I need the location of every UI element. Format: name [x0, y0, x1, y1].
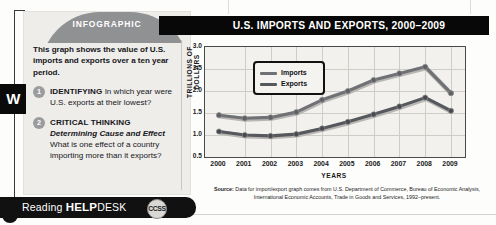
ccss-badge: CCSS: [147, 199, 167, 219]
legend-label-imports: Imports: [281, 68, 307, 78]
data-point-imports-2007: [397, 71, 402, 76]
infographic-card-body: This graph shows the value of U.S. impor…: [33, 44, 175, 161]
chart-legend: Imports Exports: [253, 61, 325, 95]
helpdesk-word-help: HELP: [66, 201, 97, 213]
data-point-imports-2006: [371, 77, 376, 82]
data-point-exports-2003: [294, 132, 299, 137]
data-point-exports-2008: [423, 95, 428, 100]
data-point-exports-2002: [268, 133, 273, 138]
data-point-exports-2001: [242, 132, 247, 137]
data-point-imports-2008: [423, 64, 428, 69]
data-point-imports-2009: [448, 91, 453, 96]
data-point-exports-2005: [345, 119, 350, 124]
y-tick-label: 2.5: [182, 64, 202, 71]
chart-plot-area: Imports Exports: [204, 46, 466, 158]
source-label: Source:: [214, 186, 234, 192]
question-number-1: 1: [33, 86, 45, 98]
legend-label-exports: Exports: [281, 79, 307, 89]
chart-series-svg: [205, 47, 465, 157]
data-point-imports-2001: [242, 116, 247, 121]
legend-swatch-imports: [260, 72, 277, 75]
question-body-2: What is one effect of a country importin…: [50, 140, 162, 160]
chart-title-bar: U.S. IMPORTS AND EXPORTS, 2000–2009: [159, 16, 489, 35]
chart-source: Source: Data for import/export graph com…: [206, 186, 488, 201]
reading-helpdesk-bar: Reading HELPDESK CCSS: [0, 197, 196, 218]
left-chapter-tab-label: W: [0, 84, 26, 114]
infographic-banner-label: INFOGRAPHIC: [24, 16, 190, 32]
chart-region: TRILLIONS OF DOLLARS 3.02.52.01.51.00.5 …: [166, 38, 491, 196]
data-point-imports-2003: [294, 110, 299, 115]
question-number-2: 2: [33, 117, 45, 129]
data-point-imports-2005: [345, 88, 350, 93]
data-point-exports-2009: [448, 108, 453, 113]
crop-mark-right: [470, 0, 471, 14]
data-point-imports-2000: [216, 113, 221, 118]
infographic-page: W INFOGRAPHIC This graph shows the value…: [0, 0, 496, 225]
question-text-1: IDENTIFYING In which year were U.S. expo…: [50, 86, 175, 108]
data-point-exports-2007: [397, 104, 402, 109]
left-chapter-tab: W: [0, 84, 26, 114]
chart-title: U.S. IMPORTS AND EXPORTS, 2000–2009: [189, 16, 489, 35]
data-point-imports-2002: [268, 115, 273, 120]
data-point-imports-2004: [320, 97, 325, 102]
infographic-lede: This graph shows the value of U.S. impor…: [33, 44, 175, 78]
helpdesk-word-reading: Reading: [22, 201, 63, 213]
card-chart-divider: [181, 40, 182, 190]
data-point-exports-2004: [320, 126, 325, 131]
y-tick-label: 0.5: [182, 152, 202, 159]
question-term-2: CRITICAL THINKING: [50, 118, 131, 127]
y-tick-label: 1.5: [182, 108, 202, 115]
data-point-exports-2006: [371, 112, 376, 117]
data-point-exports-2000: [216, 129, 221, 134]
chart-x-axis-label: YEARS: [204, 172, 464, 179]
y-tick-label: 2.0: [182, 86, 202, 93]
question-subterm-2: Determining Cause and Effect: [50, 129, 165, 138]
crop-mark-left: [228, 0, 229, 14]
reading-helpdesk-text: Reading HELPDESK: [22, 197, 127, 218]
y-tick-label: 1.0: [182, 130, 202, 137]
y-tick-label: 3.0: [182, 42, 202, 49]
question-text-2: CRITICAL THINKINGDetermining Cause and E…: [50, 117, 175, 162]
helpdesk-word-desk: DESK: [97, 201, 126, 213]
legend-swatch-exports: [260, 83, 277, 86]
question-term-1: IDENTIFYING: [50, 87, 102, 96]
x-tick-label: 2009: [435, 160, 465, 167]
source-text: Data for import/export graph comes from …: [235, 186, 480, 200]
question-item-2: 2 CRITICAL THINKINGDetermining Cause and…: [33, 117, 175, 162]
question-item-1: 1 IDENTIFYING In which year were U.S. ex…: [33, 86, 175, 108]
